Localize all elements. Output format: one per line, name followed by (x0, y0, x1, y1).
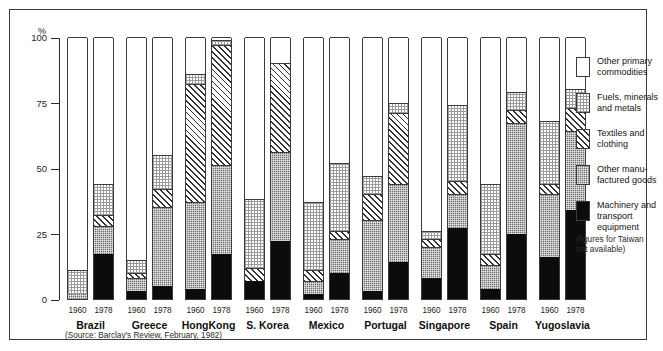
bar-group (362, 38, 409, 300)
bar-segment-other-primary (68, 37, 87, 270)
x-axis-year-label: 1960 (241, 306, 269, 315)
bar-segment-other-primary (507, 37, 526, 92)
bar-segment-other-primary (389, 37, 408, 103)
bar-group (244, 38, 291, 300)
bar-segment-machinery (127, 291, 146, 299)
y-axis-tick (51, 300, 59, 301)
bar-segment-other-primary (481, 37, 500, 184)
bar-segment-other-manufactured (153, 207, 172, 286)
bar-segment-textiles (481, 254, 500, 264)
stacked-bar[interactable] (329, 38, 350, 300)
legend-label: Other manu- factured goods (597, 164, 663, 186)
stacked-bar[interactable] (67, 38, 88, 300)
y-axis-tick-label: 50 (36, 164, 47, 174)
legend-item-other-manufactured[interactable]: Other manu- factured goods (576, 164, 663, 190)
bar-segment-fuels-minerals (540, 121, 559, 184)
x-axis-year-label: 1978 (326, 306, 354, 315)
stacked-bar[interactable] (152, 38, 173, 300)
bar-segment-textiles (330, 231, 349, 239)
legend-label: Fuels, minerals and metals (597, 92, 663, 114)
bar-segment-fuels-minerals (330, 163, 349, 231)
bar-segment-textiles (304, 270, 323, 280)
legend-item-fuels-minerals[interactable]: Fuels, minerals and metals (576, 92, 663, 118)
bar-segment-other-manufactured (186, 202, 205, 288)
x-axis-year-label: 1978 (503, 306, 531, 315)
x-axis-year-label: 1960 (418, 306, 446, 315)
x-axis-year-label: 1978 (385, 306, 413, 315)
bar-segment-other-manufactured (94, 226, 113, 255)
stacked-bar[interactable] (211, 38, 232, 300)
stacked-bar[interactable] (421, 38, 442, 300)
x-axis-year-label: 1960 (359, 306, 387, 315)
x-axis-year-label: 1978 (149, 306, 177, 315)
stacked-bar[interactable] (539, 38, 560, 300)
stacked-bar[interactable] (447, 38, 468, 300)
x-axis-year-label: 1960 (64, 306, 92, 315)
bar-segment-machinery (507, 234, 526, 300)
bar-segment-other-manufactured (127, 278, 146, 291)
stacked-bar[interactable] (303, 38, 324, 300)
stacked-bar[interactable] (480, 38, 501, 300)
bar-segment-other-primary (127, 37, 146, 260)
legend-swatch-icon (576, 129, 590, 149)
bar-segment-textiles (448, 181, 467, 194)
bar-segment-other-manufactured (389, 184, 408, 263)
x-axis-year-label: 1960 (300, 306, 328, 315)
legend-item-textiles[interactable]: Textiles and clothing (576, 128, 663, 154)
y-axis-tick (51, 38, 59, 39)
bar-segment-textiles (153, 189, 172, 207)
bar-segment-other-manufactured (422, 247, 441, 278)
bar-segment-fuels-minerals (127, 260, 146, 273)
y-axis-tick-label: 100 (31, 33, 47, 43)
bar-segment-machinery (363, 291, 382, 299)
bar-segment-fuels-minerals (186, 74, 205, 84)
bar-group (480, 38, 527, 300)
bar-segment-textiles (245, 268, 264, 281)
bar-segment-other-primary (186, 37, 205, 74)
legend-item-other-primary[interactable]: Other primary commodities (576, 56, 663, 82)
bar-group (421, 38, 468, 300)
bar-segment-textiles (186, 84, 205, 202)
y-axis-tick (51, 169, 59, 170)
stacked-bar[interactable] (362, 38, 383, 300)
stacked-bar[interactable] (185, 38, 206, 300)
bar-segment-other-primary (245, 37, 264, 199)
taiwan-note: (figures for Taiwan not available) (576, 234, 663, 254)
legend-label: Other primary commodities (597, 56, 663, 78)
legend-swatch-icon (576, 93, 590, 113)
bar-segment-fuels-minerals (68, 270, 87, 294)
bar-segment-other-primary (422, 37, 441, 231)
x-axis-year-label: 1960 (536, 306, 564, 315)
legend-item-machinery[interactable]: Machinery and transport equipment (576, 200, 663, 233)
bar-segment-machinery (304, 294, 323, 299)
chart-frame: % (Source: Barclay's Review, February, 1… (9, 9, 647, 340)
bar-segment-fuels-minerals (245, 199, 264, 267)
stacked-bar[interactable] (506, 38, 527, 300)
bar-segment-fuels-minerals (507, 92, 526, 110)
bar-group (303, 38, 350, 300)
bar-group (185, 38, 232, 300)
x-axis-year-label: 1978 (90, 306, 118, 315)
bar-segment-other-manufactured (540, 194, 559, 257)
bar-segment-textiles (507, 110, 526, 123)
y-axis-tick-label: 0 (42, 295, 47, 305)
bar-segment-textiles (540, 184, 559, 194)
y-axis-tick-label: 25 (36, 230, 47, 240)
bar-segment-machinery (186, 289, 205, 299)
chart-legend: Other primary commoditiesFuels, minerals… (576, 56, 663, 243)
bar-segment-fuels-minerals (153, 155, 172, 189)
stacked-bar[interactable] (93, 38, 114, 300)
bar-segment-textiles (389, 113, 408, 184)
bar-segment-machinery (422, 278, 441, 299)
stacked-bar[interactable] (244, 38, 265, 300)
y-axis-tick-labels (10, 10, 48, 310)
bar-segment-other-primary (363, 37, 382, 176)
bar-segment-other-primary (153, 37, 172, 155)
stacked-bar[interactable] (270, 38, 291, 300)
stacked-bar[interactable] (388, 38, 409, 300)
stacked-bar[interactable] (126, 38, 147, 300)
bar-segment-textiles (363, 194, 382, 220)
bar-segment-other-manufactured (304, 281, 323, 294)
bar-segment-machinery (94, 254, 113, 299)
bar-segment-other-manufactured (271, 152, 290, 241)
